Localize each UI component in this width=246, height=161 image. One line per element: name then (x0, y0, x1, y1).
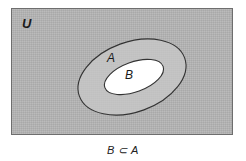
venn-ellipses (0, 0, 246, 161)
set-a-label: A (107, 52, 115, 64)
venn-diagram-figure: U A B B ⊂ A (0, 0, 246, 161)
set-b-label: B (125, 69, 133, 81)
figure-caption: B ⊂ A (0, 144, 246, 157)
universal-set-label: U (22, 17, 31, 30)
